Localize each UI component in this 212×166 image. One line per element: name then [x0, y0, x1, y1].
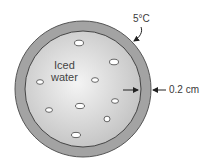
ice-cube [110, 59, 119, 65]
contents-label-line2: water [51, 71, 78, 83]
ice-cube [112, 99, 119, 104]
thickness-label: 0.2 cm [169, 85, 199, 95]
sphere-diagram [0, 0, 212, 166]
inner-sphere [25, 31, 141, 147]
contents-label-line1: Iced [51, 59, 78, 71]
contents-label: Iced water [51, 59, 78, 83]
temperature-label: 5°C [133, 14, 150, 24]
ice-cube [104, 116, 110, 122]
temperature-arrow [134, 27, 142, 41]
ice-cube [92, 78, 99, 83]
ice-cube [72, 132, 81, 137]
ice-cube [75, 40, 84, 46]
ice-cube [37, 80, 44, 85]
ice-cube [76, 103, 85, 108]
ice-cube [46, 108, 53, 113]
